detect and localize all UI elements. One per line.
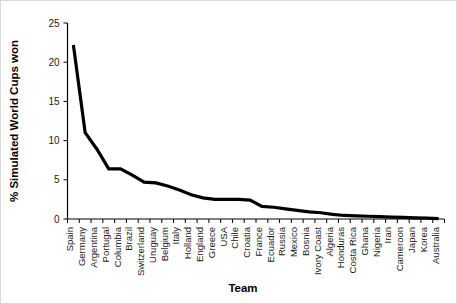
- x-tick-label: Korea: [418, 226, 429, 252]
- x-tick-label: Germany: [76, 227, 87, 266]
- x-tick-label: Columbia: [112, 226, 123, 267]
- y-axis-title: % Simulated World Cups won: [8, 40, 20, 202]
- x-tick-label: Belgium: [159, 227, 170, 261]
- x-tick-label: Algeria: [324, 226, 335, 256]
- x-tick-label: Chile: [229, 227, 240, 249]
- chart-figure: % Simulated World Cups won 0510152025 Sp…: [0, 0, 457, 304]
- x-tick-label: Costa Rica: [347, 226, 358, 273]
- x-tick-label: Uruguay: [147, 227, 158, 263]
- data-series-line: [73, 45, 438, 219]
- x-tick-label: Spain: [64, 227, 75, 251]
- y-tick-label: 20: [48, 57, 60, 68]
- x-tick-label-group: SpainGermanyArgentinaPortugalColumbiaBra…: [64, 226, 440, 276]
- x-tick-label: France: [253, 227, 264, 257]
- x-tick-label: Japan: [406, 227, 417, 253]
- x-tick-group: [68, 219, 445, 223]
- x-tick-label: Mexico: [288, 227, 299, 257]
- x-tick-label: Greece: [206, 227, 217, 258]
- y-tick-label: 5: [54, 174, 60, 185]
- x-axis-title-text: Team: [228, 282, 257, 294]
- x-tick-label: Ghana: [359, 226, 370, 255]
- x-tick-label: Italy: [170, 227, 181, 245]
- x-tick-label: Holland: [182, 227, 193, 259]
- x-tick-label: Russia: [276, 226, 287, 256]
- x-tick-label: Bosnia: [300, 226, 311, 256]
- y-tick-label: 10: [48, 135, 60, 146]
- y-tick-label: 25: [48, 18, 60, 29]
- x-tick-label: Portugal: [100, 227, 111, 262]
- x-tick-label: Australia: [430, 226, 441, 264]
- x-tick-label: Ecuador: [265, 227, 276, 262]
- x-tick-label: Brazil: [123, 227, 134, 251]
- y-tick-group: 0510152025: [48, 18, 67, 225]
- x-tick-label: Ivory Coast: [312, 227, 323, 275]
- y-axis-title-text: % Simulated World Cups won: [8, 40, 20, 202]
- x-axis-title: Team: [228, 282, 257, 294]
- x-tick-label: Iran: [382, 227, 393, 243]
- x-tick-label: Croatia: [241, 226, 252, 257]
- x-tick-label: USA: [218, 226, 229, 246]
- x-tick-label: England: [194, 227, 205, 262]
- y-tick-label: 15: [48, 96, 60, 107]
- y-tick-label: 0: [54, 214, 60, 225]
- x-tick-label: Honduras: [335, 227, 346, 268]
- x-tick-label: Argentina: [88, 226, 99, 267]
- x-tick-label: Switzerland: [135, 227, 146, 276]
- line-chart-svg: % Simulated World Cups won 0510152025 Sp…: [1, 1, 457, 304]
- x-tick-label: Cameroon: [394, 227, 405, 271]
- x-tick-label: Nigeria: [371, 226, 382, 257]
